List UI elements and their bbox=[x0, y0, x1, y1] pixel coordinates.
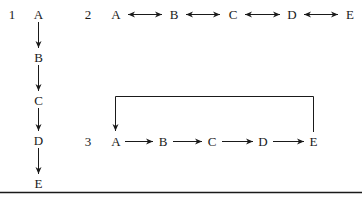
diagram-3-node-b: B bbox=[159, 135, 168, 148]
diagram-2-node-d: D bbox=[287, 8, 296, 21]
diagram-1-node-e: E bbox=[35, 177, 43, 190]
diagram-3-node-a: A bbox=[111, 135, 120, 148]
diagram-canvas bbox=[0, 0, 362, 197]
diagram-3-node-c: C bbox=[208, 135, 217, 148]
diagram-1-number: 1 bbox=[9, 8, 16, 21]
diagram-2-node-b: B bbox=[170, 8, 179, 21]
diagram-3-number: 3 bbox=[85, 135, 92, 148]
arrow-3-e-a-loop bbox=[116, 97, 314, 133]
diagram-1-node-d: D bbox=[34, 134, 43, 147]
diagram-2-node-a: A bbox=[111, 8, 120, 21]
diagram-2-node-c: C bbox=[229, 8, 238, 21]
diagram-1-node-b: B bbox=[34, 51, 43, 64]
diagram-2-node-e: E bbox=[346, 8, 354, 21]
diagram-1-node-c: C bbox=[34, 94, 43, 107]
diagram-3-node-d: D bbox=[258, 135, 267, 148]
diagram-2-number: 2 bbox=[85, 8, 92, 21]
diagram-1-node-a: A bbox=[34, 8, 43, 21]
diagram-3-node-e: E bbox=[310, 135, 318, 148]
